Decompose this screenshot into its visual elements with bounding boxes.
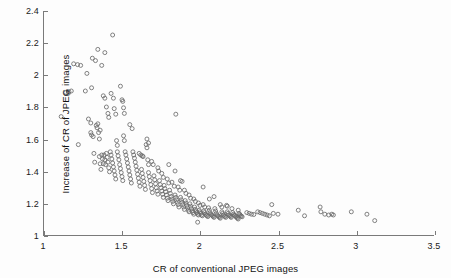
data-point — [110, 157, 114, 161]
data-point — [154, 182, 158, 186]
data-point — [116, 154, 120, 158]
y-tick-mark — [44, 107, 48, 108]
data-point — [106, 111, 110, 115]
data-point — [147, 163, 151, 167]
data-point — [135, 168, 139, 172]
data-point — [147, 171, 151, 175]
data-point — [149, 183, 153, 187]
data-point — [99, 167, 103, 171]
data-point — [133, 160, 137, 164]
y-tick-mark — [44, 236, 48, 237]
data-point — [276, 212, 280, 216]
data-point — [134, 164, 138, 168]
data-point — [303, 214, 307, 218]
data-point — [92, 151, 96, 155]
y-axis-label: Increase of CR of JPEG images — [60, 54, 71, 193]
x-tick-mark — [200, 231, 201, 235]
data-point — [174, 112, 178, 116]
data-point — [122, 106, 126, 110]
x-tick-label: 2.5 — [271, 241, 284, 251]
data-point — [323, 212, 327, 216]
data-point — [161, 175, 165, 179]
data-point — [150, 187, 154, 191]
data-point — [373, 219, 377, 223]
y-tick-mark — [44, 43, 48, 44]
data-point — [72, 62, 76, 66]
data-point — [128, 173, 132, 177]
data-point — [365, 212, 369, 216]
data-point — [140, 171, 144, 175]
data-point — [112, 169, 116, 173]
x-tick-label: 1 — [40, 241, 45, 251]
data-point — [83, 89, 87, 93]
data-point — [152, 174, 156, 178]
data-points-layer — [44, 11, 434, 235]
plot-area — [43, 11, 434, 236]
data-point — [93, 59, 97, 63]
data-point — [122, 134, 126, 138]
data-point — [173, 169, 177, 173]
x-tick-label: 3 — [353, 241, 358, 251]
data-point — [147, 175, 151, 179]
data-point — [319, 210, 323, 214]
data-point — [128, 123, 132, 127]
y-tick-mark — [44, 75, 48, 76]
x-tick-label: 1.5 — [115, 241, 128, 251]
data-point — [171, 202, 175, 206]
data-point — [111, 165, 115, 169]
data-point — [90, 86, 94, 90]
data-point — [112, 107, 116, 111]
data-point — [114, 177, 118, 181]
data-point — [138, 184, 142, 188]
data-point — [136, 176, 140, 180]
data-point — [97, 137, 101, 141]
x-tick-mark — [357, 231, 358, 235]
data-point — [160, 171, 164, 175]
data-point — [167, 163, 171, 167]
series-jpeg-images — [59, 33, 377, 224]
data-point — [113, 173, 117, 177]
data-point — [141, 175, 145, 179]
data-point — [89, 121, 93, 125]
data-point — [109, 91, 113, 95]
data-point — [267, 214, 271, 218]
x-tick-mark — [279, 231, 280, 235]
data-point — [129, 181, 133, 185]
data-point — [296, 208, 300, 212]
x-tick-mark — [44, 231, 45, 235]
data-point — [207, 197, 211, 201]
data-point — [86, 117, 90, 121]
data-point — [126, 165, 130, 169]
data-point — [212, 195, 216, 199]
data-point — [196, 220, 200, 224]
data-point — [153, 178, 157, 182]
y-axis-label-wrapper: Increase of CR of JPEG images — [0, 11, 18, 236]
data-point — [96, 47, 100, 51]
data-point — [145, 137, 149, 141]
data-point — [121, 179, 125, 183]
data-point — [122, 139, 126, 143]
data-point — [129, 177, 133, 181]
y-tick-mark — [44, 172, 48, 173]
data-point — [117, 158, 121, 162]
data-point — [172, 184, 176, 188]
data-point — [105, 155, 109, 159]
data-point — [106, 160, 110, 164]
data-point — [166, 199, 170, 203]
data-point — [148, 179, 152, 183]
data-point — [270, 203, 274, 207]
data-point — [125, 161, 129, 165]
data-point — [143, 187, 147, 191]
data-point — [118, 84, 122, 88]
y-tick-mark — [44, 11, 48, 12]
data-point — [142, 179, 146, 183]
data-point — [85, 71, 89, 75]
data-point — [115, 139, 119, 143]
data-point — [349, 210, 353, 214]
data-point — [127, 169, 131, 173]
data-point — [140, 167, 144, 171]
data-point — [104, 105, 108, 109]
data-point — [111, 161, 115, 165]
data-point — [115, 150, 119, 154]
data-point — [143, 183, 147, 187]
